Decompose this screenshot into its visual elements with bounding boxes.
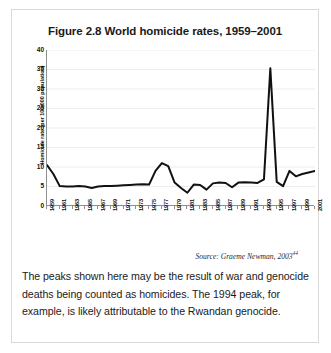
x-axis-tick-label: 1971 [125,199,131,211]
x-axis-tick-label: 1977 [163,199,169,211]
y-axis-tick-label: 5 [28,183,44,190]
x-axis-tick-label: 1975 [151,199,157,211]
x-axis-tick-label: 1963 [74,199,80,211]
x-axis-tick-label: 1989 [240,199,246,211]
x-axis-tick-label: 1965 [87,199,93,211]
x-axis-tick-mark [186,206,187,209]
x-axis-tick-label: 1999 [304,199,310,211]
x-axis-tick-labels: 1959196119631965196719691971197319751977… [46,206,314,250]
x-axis-tick-mark [225,206,226,209]
y-axis-tick-labels: 0510152025303540 [26,50,44,250]
x-axis-tick-mark [148,206,149,209]
source-attribution: Source: Graeme Newman, 200344 [195,250,298,261]
x-axis-tick-mark [301,206,302,209]
x-axis-tick-mark [250,206,251,209]
x-axis-tick-label: 1991 [253,199,259,211]
figure-caption: The peaks shown here may be the result o… [22,268,310,321]
x-axis-tick-label: 1979 [176,199,182,211]
y-axis-tick-label: 25 [28,105,44,112]
x-axis-tick-mark [199,206,200,209]
x-axis-tick-mark [263,206,264,209]
y-axis-tick-label: 10 [28,164,44,171]
x-axis-tick-label: 1993 [266,199,272,211]
x-axis-tick-label: 1995 [278,199,284,211]
x-axis-tick-mark [212,206,213,209]
x-axis-tick-label: 1997 [291,199,297,211]
figure-container: Figure 2.8 World homicide rates, 1959–20… [11,9,319,343]
plot-area [46,50,314,206]
x-axis-tick-mark [237,206,238,209]
x-axis-tick-label: 1987 [227,199,233,211]
x-axis-tick-label: 1969 [112,199,118,211]
x-axis-tick-label: 2001 [317,199,323,211]
x-axis-tick-mark [161,206,162,209]
x-axis-tick-label: 1985 [215,199,221,211]
x-axis-tick-label: 1959 [49,199,55,211]
x-axis-tick-mark [135,206,136,209]
x-axis-tick-label: 1981 [189,199,195,211]
x-axis-tick-mark [288,206,289,209]
chart-area: Homicide rate (per 100,000 population) 0… [16,50,316,250]
y-axis-tick-label: 35 [28,66,44,73]
x-axis-tick-mark [276,206,277,209]
y-axis-tick-label: 20 [28,125,44,132]
gridlines [47,50,315,187]
homicide-rate-line-chart [47,50,315,206]
y-axis-tick-label: 30 [28,86,44,93]
source-footnote-marker: 44 [293,250,298,256]
x-axis-tick-mark [174,206,175,209]
x-axis-tick-mark [59,206,60,209]
data-series-line [47,68,315,192]
x-axis-tick-mark [110,206,111,209]
x-axis-tick-label: 1961 [61,199,67,211]
x-axis-tick-mark [84,206,85,209]
x-axis-tick-mark [97,206,98,209]
x-axis-tick-mark [123,206,124,209]
x-axis-tick-mark [72,206,73,209]
x-axis-tick-label: 1983 [202,199,208,211]
x-axis-tick-label: 1973 [138,199,144,211]
y-axis-tick-label: 0 [28,203,44,210]
y-axis-tick-label: 40 [28,47,44,54]
y-axis-tick-label: 15 [28,144,44,151]
source-text: Source: Graeme Newman, 2003 [195,252,292,261]
figure-title: Figure 2.8 World homicide rates, 1959–20… [12,25,318,37]
x-axis-tick-label: 1967 [100,199,106,211]
x-axis-tick-mark [314,206,315,209]
x-axis-tick-mark [46,206,47,209]
